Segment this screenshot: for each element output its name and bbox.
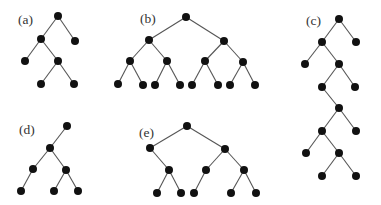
tree-edge [155, 61, 167, 85]
tree-edge [187, 126, 225, 149]
tree-c: (c) [301, 13, 360, 180]
tree-node [214, 81, 222, 89]
tree-node [318, 127, 326, 135]
tree-edge [130, 40, 149, 61]
tree-root-node [54, 12, 62, 20]
tree-diagram-canvas: (a)(b)(c)(d)(e) [0, 0, 381, 205]
tree-node [163, 57, 171, 65]
tree-label: (d) [19, 122, 35, 137]
tree-edge [225, 149, 244, 170]
tree-edge [339, 108, 356, 131]
tree-node [54, 57, 62, 65]
tree-edge [322, 153, 339, 176]
tree-edge [322, 19, 339, 42]
tree-node [17, 187, 25, 195]
tree-node [139, 81, 147, 89]
tree-root-node [182, 13, 190, 21]
tree-node [335, 104, 343, 112]
tree-node [352, 127, 360, 135]
tree-node [165, 166, 173, 174]
tree-node [126, 57, 134, 65]
tree-a: (a) [18, 12, 79, 88]
tree-edge [58, 61, 74, 84]
tree-node [46, 144, 54, 152]
tree-node [21, 57, 29, 65]
tree-node [188, 81, 196, 89]
tree-node [351, 83, 359, 91]
tree-node [335, 149, 343, 157]
tree-b: (b) [114, 11, 259, 89]
tree-edge [322, 87, 339, 108]
tree-label: (a) [18, 12, 33, 27]
tree-node [190, 189, 198, 197]
tree-node [151, 81, 159, 89]
tree-edge [339, 19, 356, 42]
tree-edge [205, 41, 224, 61]
tree-e: (e) [139, 122, 260, 197]
tree-node [252, 189, 260, 197]
tree-edge [149, 40, 167, 61]
tree-node [114, 80, 122, 88]
tree-edge [224, 41, 243, 62]
tree-node [37, 35, 45, 43]
tree-node [176, 81, 184, 89]
tree-edge [33, 148, 50, 169]
tree-node [50, 187, 58, 195]
tree-node [62, 166, 70, 174]
tree-node [240, 166, 248, 174]
tree-diagram-figure: (a)(b)(c)(d)(e) [0, 0, 381, 205]
tree-node [335, 60, 343, 68]
tree-node [201, 57, 209, 65]
tree-root-node [183, 122, 191, 130]
tree-edge [41, 61, 58, 84]
tree-edge [322, 108, 339, 131]
tree-node [352, 38, 360, 46]
tree-edge [130, 61, 143, 85]
tree-node [226, 81, 234, 89]
tree-label: (c) [306, 13, 321, 28]
tree-node [29, 165, 37, 173]
tree-node [74, 187, 82, 195]
tree-edge [186, 17, 224, 41]
tree-edge [322, 42, 339, 64]
tree-node [220, 37, 228, 45]
tree-node [318, 38, 326, 46]
tree-node [177, 189, 185, 197]
tree-edge [205, 61, 218, 85]
tree-node [71, 37, 79, 45]
tree-node [202, 166, 210, 174]
tree-edge [192, 61, 205, 85]
tree-node [146, 144, 154, 152]
tree-label: (b) [140, 11, 156, 26]
tree-edge [339, 64, 355, 87]
tree-node [145, 36, 153, 44]
tree-d: (d) [17, 122, 82, 195]
tree-edge [50, 148, 66, 170]
tree-edge [25, 39, 41, 61]
tree-node [70, 80, 78, 88]
tree-node [318, 172, 326, 180]
tree-root-node [63, 122, 71, 130]
tree-node [318, 83, 326, 91]
tree-edge [322, 131, 339, 153]
tree-edge [41, 16, 58, 39]
tree-node [302, 149, 310, 157]
tree-edge [167, 61, 180, 85]
tree-edge [339, 153, 356, 176]
tree-label: (e) [139, 125, 154, 140]
tree-node [37, 80, 45, 88]
tree-node [352, 172, 360, 180]
tree-root-node [335, 15, 343, 23]
tree-edge [150, 148, 169, 170]
tree-edge [50, 126, 67, 148]
tree-edge [150, 126, 187, 148]
tree-node [153, 189, 161, 197]
tree-node [301, 60, 309, 68]
tree-edge [306, 131, 322, 153]
tree-node [239, 58, 247, 66]
tree-edge [41, 39, 58, 61]
tree-edge [322, 64, 339, 87]
tree-edge [206, 149, 225, 170]
tree-edge [305, 42, 322, 64]
tree-edge [58, 16, 75, 41]
